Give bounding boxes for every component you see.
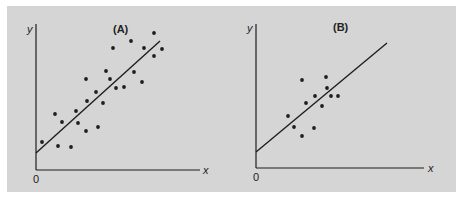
data-point: [114, 86, 118, 90]
data-point: [320, 104, 324, 108]
x-axis-label-b: x: [427, 162, 434, 174]
data-point: [132, 70, 136, 74]
y-axis-label-b: y: [246, 22, 254, 34]
data-point: [286, 114, 290, 118]
regression-line-a: [36, 41, 160, 153]
data-point: [69, 145, 73, 149]
scatter-figure: y x 0 (A) y x 0 (B): [0, 0, 465, 198]
data-point: [101, 101, 105, 105]
data-point: [60, 120, 64, 124]
data-point: [111, 46, 115, 50]
data-point: [300, 134, 304, 138]
regression-line-b: [256, 43, 387, 152]
y-axis-label-a: y: [26, 23, 34, 35]
data-point: [84, 129, 88, 133]
data-point: [122, 85, 126, 89]
data-points-b: [286, 75, 340, 138]
data-point: [313, 94, 317, 98]
data-point: [304, 101, 308, 105]
chart-title-a: (A): [113, 23, 129, 35]
data-point: [336, 94, 340, 98]
origin-label-a: 0: [33, 173, 39, 185]
scatter-plot-a: y x 0 (A): [26, 23, 209, 185]
data-point: [312, 126, 316, 130]
data-point: [85, 99, 89, 103]
data-point: [76, 121, 80, 125]
data-point: [129, 39, 133, 43]
data-point: [84, 77, 88, 81]
data-point: [292, 125, 296, 129]
data-point: [140, 80, 144, 84]
scatter-plot-b: y x 0 (B): [246, 21, 434, 183]
data-point: [142, 46, 146, 50]
data-point: [160, 47, 164, 51]
data-point: [325, 86, 329, 90]
data-point: [40, 140, 44, 144]
data-point: [324, 75, 328, 79]
data-point: [300, 78, 304, 82]
data-point: [96, 125, 100, 129]
data-point: [56, 144, 60, 148]
data-point: [74, 109, 78, 113]
origin-label-b: 0: [253, 171, 259, 183]
data-point: [53, 112, 57, 116]
data-point: [152, 54, 156, 58]
chart-title-b: (B): [333, 21, 349, 33]
data-point: [108, 77, 112, 81]
data-point: [104, 69, 108, 73]
data-points-a: [40, 31, 164, 149]
data-point: [329, 94, 333, 98]
x-axis-label-a: x: [202, 164, 209, 176]
data-point: [94, 90, 98, 94]
data-point: [152, 31, 156, 35]
